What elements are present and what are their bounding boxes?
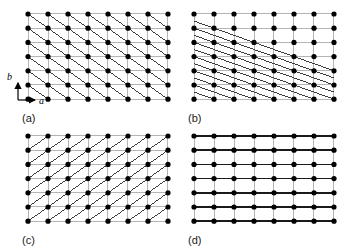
lattice-point (85, 26, 90, 31)
lattice-point (65, 162, 70, 167)
lattice-point (331, 133, 336, 138)
lattice-point (251, 40, 256, 45)
lattice-point (251, 190, 256, 195)
lattice-point (271, 82, 276, 87)
lattice-point (65, 82, 70, 87)
lattice-point (291, 40, 296, 45)
lattice-panel-d (188, 130, 340, 227)
plane-line-c (148, 207, 168, 221)
lattice-point (65, 54, 70, 59)
lattice-point (331, 219, 336, 224)
lattice-point (271, 40, 276, 45)
lattice-grid-c (22, 130, 174, 227)
lattice-point (291, 190, 296, 195)
lattice-point (251, 11, 256, 16)
lattice-point (125, 54, 130, 59)
lattice-point (231, 54, 236, 59)
lattice-point (25, 190, 30, 195)
lattice-point (271, 68, 276, 73)
lattice-point (85, 54, 90, 59)
lattice-point (125, 190, 130, 195)
lattice-point (45, 26, 50, 31)
lattice-point (191, 82, 196, 87)
lattice-point (25, 162, 30, 167)
lattice-point (311, 148, 316, 153)
lattice-point (251, 82, 256, 87)
lattice-point (291, 11, 296, 16)
lattice-point (271, 162, 276, 167)
lattice-point (65, 133, 70, 138)
lattice-point (331, 40, 336, 45)
lattice-point (125, 176, 130, 181)
lattice-point (291, 54, 296, 59)
lattice-point (191, 176, 196, 181)
panel-label-c: (c) (22, 234, 35, 246)
lattice-point (311, 219, 316, 224)
lattice-point (231, 11, 236, 16)
lattice-point (211, 162, 216, 167)
lattice-point (45, 11, 50, 16)
lattice-point (231, 82, 236, 87)
lattice-point (311, 68, 316, 73)
lattice-point (331, 97, 336, 102)
lattice-point (65, 204, 70, 209)
lattice-point (105, 190, 110, 195)
lattice-point (291, 97, 296, 102)
lattice-point (105, 97, 110, 102)
lattice-point (125, 148, 130, 153)
lattice-point (125, 162, 130, 167)
lattice-point (165, 11, 170, 16)
lattice-point (331, 26, 336, 31)
lattice-point (145, 219, 150, 224)
lattice-point (251, 148, 256, 153)
lattice-point (45, 162, 50, 167)
lattice-point (291, 219, 296, 224)
lattice-point (231, 176, 236, 181)
lattice-point (85, 133, 90, 138)
plane-line-c (28, 136, 128, 207)
axis-label-b: b (7, 71, 12, 82)
lattice-point (105, 219, 110, 224)
lattice-point (25, 219, 30, 224)
lattice-point (85, 204, 90, 209)
lattice-point (271, 133, 276, 138)
lattice-point (145, 190, 150, 195)
lattice-point (125, 40, 130, 45)
lattice-point (165, 148, 170, 153)
lattice-point (85, 40, 90, 45)
lattice-point (231, 133, 236, 138)
lattice-point (105, 11, 110, 16)
lattice-point (331, 204, 336, 209)
lattice-point (231, 204, 236, 209)
lattice-point (291, 148, 296, 153)
lattice-point (165, 162, 170, 167)
lattice-point (191, 97, 196, 102)
lattice-point (145, 133, 150, 138)
lattice-point (25, 176, 30, 181)
lattice-point (65, 219, 70, 224)
lattice-point (65, 40, 70, 45)
lattice-point (191, 40, 196, 45)
lattice-point (105, 26, 110, 31)
lattice-point (45, 219, 50, 224)
lattice-point (251, 204, 256, 209)
lattice-point (211, 97, 216, 102)
lattice-point (85, 97, 90, 102)
lattice-point (145, 97, 150, 102)
lattice-point (211, 190, 216, 195)
lattice-point (65, 148, 70, 153)
lattice-point (231, 148, 236, 153)
lattice-point (211, 54, 216, 59)
lattice-point (191, 68, 196, 73)
lattice-point (331, 190, 336, 195)
lattice-point (105, 133, 110, 138)
lattice-panel-c (22, 130, 174, 227)
lattice-point (165, 26, 170, 31)
lattice-point (311, 204, 316, 209)
lattice-point (251, 54, 256, 59)
lattice-point (191, 11, 196, 16)
lattice-point (191, 190, 196, 195)
lattice-point (145, 68, 150, 73)
lattice-point (291, 26, 296, 31)
